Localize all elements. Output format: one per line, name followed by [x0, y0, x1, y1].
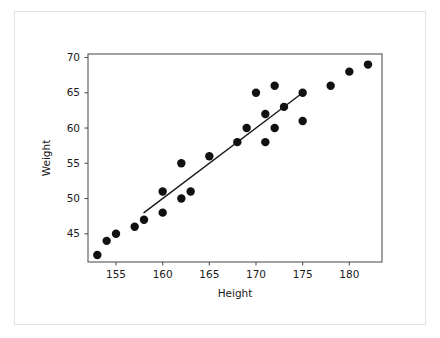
x-tick-label: 155: [106, 268, 126, 280]
x-axis-title: Height: [218, 287, 253, 299]
scatter-point: [261, 138, 269, 146]
y-tick-label: 60: [67, 122, 80, 134]
plot-frame: [88, 54, 382, 262]
regression-line: [144, 93, 303, 213]
scatter-point: [177, 194, 185, 202]
scatter-point: [233, 138, 241, 146]
scatter-point: [242, 124, 250, 132]
scatter-point: [158, 187, 166, 195]
scatter-point: [252, 89, 260, 97]
x-axis-ticks: 155160165170175180: [106, 262, 359, 280]
x-tick-label: 170: [246, 268, 266, 280]
y-axis-ticks: 455055606570: [67, 51, 88, 239]
axes-spines: [88, 54, 382, 262]
scatter-point: [140, 215, 148, 223]
data-points: [93, 60, 372, 259]
y-tick-label: 65: [67, 86, 80, 98]
scatter-point: [298, 117, 306, 125]
scatter-point: [93, 251, 101, 259]
scatter-point: [280, 103, 288, 111]
scatter-point: [298, 89, 306, 97]
scatter-point: [261, 110, 269, 118]
y-tick-label: 55: [67, 157, 80, 169]
scatter-point: [205, 152, 213, 160]
scatter-point: [326, 82, 334, 90]
scatter-point: [345, 67, 353, 75]
y-tick-label: 50: [67, 192, 80, 204]
y-axis-title: Weight: [40, 140, 52, 177]
x-tick-label: 165: [199, 268, 219, 280]
scatter-point: [270, 82, 278, 90]
x-tick-label: 175: [293, 268, 313, 280]
scatter-point: [102, 237, 110, 245]
scatter-plot: 155160165170175180 455055606570 Height W…: [15, 12, 427, 326]
y-tick-label: 45: [67, 227, 80, 239]
scatter-point: [130, 223, 138, 231]
scatter-point: [364, 60, 372, 68]
fit-line-segment: [144, 93, 303, 213]
x-tick-label: 180: [339, 268, 359, 280]
scatter-point: [158, 208, 166, 216]
y-tick-label: 70: [67, 51, 80, 63]
x-tick-label: 160: [153, 268, 173, 280]
figure-card: 155160165170175180 455055606570 Height W…: [14, 11, 426, 325]
scatter-point: [186, 187, 194, 195]
scatter-point: [112, 230, 120, 238]
scatter-point: [177, 159, 185, 167]
scatter-point: [270, 124, 278, 132]
